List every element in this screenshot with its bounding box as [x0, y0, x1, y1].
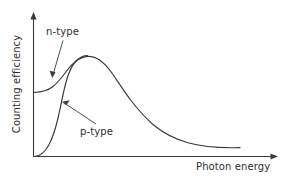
- y-axis-arrowhead-icon: [30, 12, 36, 20]
- chart-plot-area: [0, 0, 291, 179]
- n-type-curve-label: n-type: [46, 26, 79, 37]
- counting-efficiency-chart: Counting efficiency Photon energy n-type…: [0, 0, 291, 179]
- y-axis-label: Counting efficiency: [11, 34, 22, 134]
- x-axis-label: Photon energy: [196, 161, 270, 172]
- p-type-curve-label: p-type: [80, 126, 113, 137]
- p-type-annotation-line: [67, 105, 97, 125]
- p-type-annotation-arrowhead-icon: [62, 100, 69, 105]
- n-type-annotation-line: [54, 41, 64, 74]
- p-type-curve: [36, 56, 88, 157]
- x-axis-arrowhead-icon: [271, 153, 279, 159]
- n-type-annotation-arrowhead-icon: [50, 71, 56, 78]
